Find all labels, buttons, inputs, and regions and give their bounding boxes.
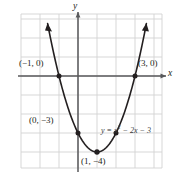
- equation-term2: − 2x: [123, 126, 138, 135]
- x-axis-label: x: [168, 69, 172, 79]
- point-root-left: [57, 74, 62, 79]
- equation-term3: − 3: [139, 126, 150, 135]
- root-left-label: (−1, 0): [19, 59, 44, 68]
- y-axis-label: y: [73, 2, 77, 12]
- equation-term1-exponent: 2: [118, 124, 121, 130]
- parabola-figure: (−1, 0) (3, 0) (0, −3) (1, −4) x y y = x…: [0, 0, 179, 177]
- equation-label: y = x2 − 2x − 3: [101, 127, 151, 135]
- coordinate-plane: [0, 0, 179, 177]
- point-vertex: [94, 149, 99, 154]
- equation-lhs: y: [101, 126, 105, 135]
- point-root-right: [133, 74, 138, 79]
- y-intercept-label: (0, −3): [29, 116, 54, 125]
- vertex-label: (1, −4): [81, 157, 106, 166]
- equation-equals: =: [107, 126, 112, 135]
- point-y-intercept: [76, 131, 81, 136]
- root-right-label: (3, 0): [138, 59, 158, 68]
